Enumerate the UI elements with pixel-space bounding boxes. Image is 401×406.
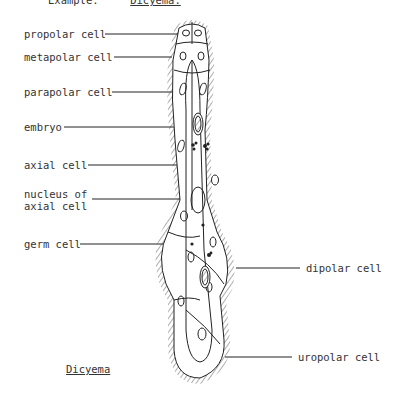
label-nucleus-of-axial-cell-line2: axial cell [24,200,87,212]
label-propolar-cell: propolar cell [24,28,106,40]
label-axial-cell: axial cell [24,159,87,171]
label-dipolar-cell: dipolar cell [306,262,382,274]
figure-caption: Dicyema [66,363,110,375]
label-uropolar-cell: uropolar cell [298,351,380,363]
label-germ-cell: germ cell [24,238,81,250]
label-metapolar-cell: metapolar cell [24,51,113,63]
label-parapolar-cell: parapolar cell [24,86,113,98]
label-nucleus-of-axial-cell-line1: nucleus of [24,188,87,200]
label-embryo: embryo [24,121,62,133]
